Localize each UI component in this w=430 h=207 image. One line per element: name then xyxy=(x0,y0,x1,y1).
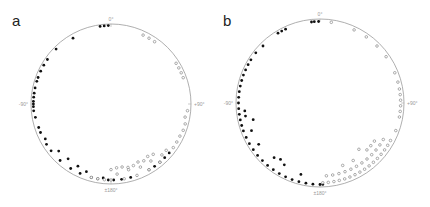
data-point-filled xyxy=(33,92,36,95)
data-point-open xyxy=(184,123,187,126)
data-point-filled xyxy=(317,20,320,23)
data-point-filled xyxy=(248,142,251,145)
data-point-filled xyxy=(57,150,60,153)
data-point-filled xyxy=(120,178,123,181)
data-point-filled xyxy=(261,159,264,162)
data-point-filled xyxy=(243,110,246,113)
data-point-open xyxy=(370,153,373,156)
data-point-filled xyxy=(247,63,250,66)
data-point-open xyxy=(180,72,183,75)
data-point-open xyxy=(385,55,388,58)
data-point-filled xyxy=(262,45,265,48)
data-point-filled xyxy=(77,165,80,168)
data-point-filled xyxy=(240,124,243,127)
data-point-open xyxy=(394,72,397,75)
data-point-open xyxy=(172,146,175,149)
data-point-open xyxy=(110,168,113,171)
data-point-open xyxy=(148,37,151,40)
data-point-filled xyxy=(240,79,243,82)
data-point-open xyxy=(353,29,356,32)
data-point-open xyxy=(338,179,341,182)
data-point-filled xyxy=(252,118,255,121)
data-point-filled xyxy=(245,136,248,139)
data-point-filled xyxy=(319,183,322,186)
data-point-open xyxy=(380,153,383,156)
data-point-filled xyxy=(32,105,35,108)
data-point-open xyxy=(354,173,357,176)
data-point-filled xyxy=(313,20,316,23)
data-point-filled xyxy=(35,80,38,83)
data-point-open xyxy=(399,99,402,102)
data-point-filled xyxy=(284,175,287,178)
data-point-open xyxy=(115,167,118,170)
data-point-open xyxy=(368,165,371,168)
data-point-filled xyxy=(103,25,106,28)
data-point-filled xyxy=(238,113,241,116)
data-point-filled xyxy=(244,115,247,118)
data-point-open xyxy=(161,154,164,157)
circular-scatter-charts: 0°±180°-90°+90°0°±180°-90°+90° xyxy=(0,0,430,207)
data-point-open xyxy=(373,140,376,143)
data-point-open xyxy=(121,166,124,169)
data-point-filled xyxy=(298,180,301,183)
data-point-open xyxy=(137,161,140,164)
data-point-open xyxy=(184,116,187,119)
data-point-open xyxy=(366,149,369,152)
data-point-filled xyxy=(278,172,281,175)
data-point-filled xyxy=(250,58,253,61)
data-point-filled xyxy=(237,96,240,99)
data-point-filled xyxy=(39,70,42,73)
data-point-filled xyxy=(237,102,240,105)
panel-b-circle xyxy=(236,19,404,187)
data-point-open xyxy=(153,40,156,43)
data-point-filled xyxy=(291,178,294,181)
data-point-open xyxy=(389,139,392,142)
data-point-open xyxy=(90,176,93,179)
data-point-open xyxy=(136,174,139,177)
data-point-open xyxy=(143,160,146,163)
data-point-filled xyxy=(163,156,166,159)
panel-a-circle xyxy=(31,24,191,184)
data-point-open xyxy=(350,168,353,171)
data-point-open xyxy=(142,34,145,37)
axis-label-right: +90° xyxy=(194,101,204,107)
data-point-open xyxy=(325,175,328,178)
data-point-filled xyxy=(242,74,245,77)
data-point-filled xyxy=(44,138,47,141)
data-point-filled xyxy=(34,116,37,119)
data-point-filled xyxy=(239,85,242,88)
data-point-filled xyxy=(59,159,62,162)
axis-label-bottom: ±180° xyxy=(313,190,326,196)
data-point-filled xyxy=(85,170,88,173)
axis-label-top: 0° xyxy=(109,16,114,22)
data-point-open xyxy=(343,178,346,181)
data-point-filled xyxy=(168,152,171,155)
data-point-open xyxy=(327,181,330,184)
data-point-filled xyxy=(257,143,260,146)
data-point-open xyxy=(139,166,142,169)
data-point-filled xyxy=(37,76,40,79)
data-point-open xyxy=(379,144,382,147)
data-point-filled xyxy=(67,157,70,160)
data-point-open xyxy=(398,116,401,119)
data-point-open xyxy=(375,149,378,152)
data-point-filled xyxy=(45,143,48,146)
data-point-filled xyxy=(237,107,240,110)
data-point-filled xyxy=(239,119,242,122)
data-point-open xyxy=(372,161,375,164)
data-point-filled xyxy=(32,103,35,106)
axis-label-right: +90° xyxy=(407,100,417,106)
data-point-filled xyxy=(254,51,257,54)
data-point-open xyxy=(395,129,398,132)
axis-label-top: 0° xyxy=(318,11,323,17)
data-point-open xyxy=(366,158,369,161)
data-point-filled xyxy=(244,69,247,72)
data-point-filled xyxy=(277,32,280,35)
axis-label-left: -90° xyxy=(224,100,233,106)
data-point-filled xyxy=(312,183,315,186)
data-point-open xyxy=(383,149,386,152)
data-point-open xyxy=(399,93,402,96)
data-point-filled xyxy=(37,126,40,129)
data-point-filled xyxy=(32,109,35,112)
data-point-open xyxy=(361,162,364,165)
